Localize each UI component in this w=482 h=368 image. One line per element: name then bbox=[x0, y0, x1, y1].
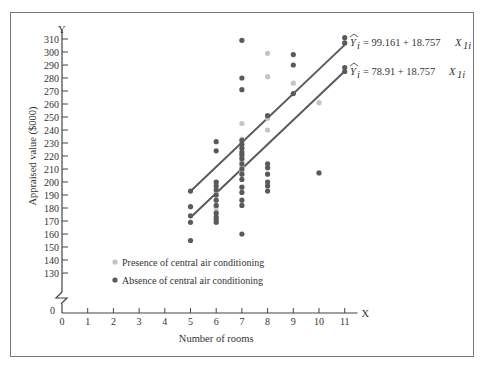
y-tick-label: 180 bbox=[44, 203, 59, 214]
point-without-ac bbox=[291, 62, 296, 67]
point-with-ac bbox=[265, 74, 270, 79]
x-tick-label: 6 bbox=[214, 316, 219, 327]
point-without-ac bbox=[239, 177, 244, 182]
point-without-ac bbox=[214, 148, 219, 153]
point-without-ac bbox=[265, 113, 270, 118]
y-tick-label: 310 bbox=[44, 34, 59, 45]
x-tick-label: 8 bbox=[265, 316, 270, 327]
point-without-ac bbox=[239, 161, 244, 166]
point-without-ac bbox=[239, 156, 244, 161]
svg-text:= 78.91 + 18.757: = 78.91 + 18.757 bbox=[363, 66, 435, 77]
point-without-ac bbox=[214, 139, 219, 144]
legend-marker-without-ac bbox=[112, 277, 117, 282]
chart-frame bbox=[11, 13, 474, 357]
svg-text:1i: 1i bbox=[463, 40, 471, 51]
x-tick-label: 9 bbox=[291, 316, 296, 327]
svg-text:X: X bbox=[454, 37, 462, 48]
point-without-ac bbox=[239, 166, 244, 171]
point-without-ac bbox=[188, 238, 193, 243]
point-without-ac bbox=[239, 38, 244, 43]
point-without-ac bbox=[239, 75, 244, 80]
point-without-ac bbox=[239, 172, 244, 177]
point-without-ac bbox=[214, 192, 219, 197]
svg-text:i: i bbox=[357, 40, 360, 51]
point-without-ac bbox=[291, 52, 296, 57]
point-with-ac bbox=[291, 81, 296, 86]
x-axis-title: Number of rooms bbox=[179, 333, 254, 344]
point-without-ac bbox=[214, 220, 219, 225]
y-tick-label: 220 bbox=[44, 151, 59, 162]
y-tick-label: 200 bbox=[44, 177, 59, 188]
x-tick-label: 10 bbox=[314, 316, 324, 327]
point-without-ac bbox=[265, 189, 270, 194]
y-tick-label: 290 bbox=[44, 60, 59, 71]
point-without-ac bbox=[239, 87, 244, 92]
x-tick-label: 0 bbox=[60, 316, 65, 327]
legend-marker-with-ac bbox=[112, 259, 117, 264]
y-tick-label: 210 bbox=[44, 164, 59, 175]
point-without-ac bbox=[214, 198, 219, 203]
point-without-ac bbox=[188, 189, 193, 194]
svg-text:= 99.161 + 18.757: = 99.161 + 18.757 bbox=[363, 37, 440, 48]
y-tick-label: 140 bbox=[44, 255, 59, 266]
point-without-ac bbox=[265, 183, 270, 188]
y-tick-label: 170 bbox=[44, 216, 59, 227]
y-tick-label: 130 bbox=[44, 268, 59, 279]
point-without-ac bbox=[214, 187, 219, 192]
point-with-ac bbox=[316, 100, 321, 105]
point-with-ac bbox=[265, 127, 270, 132]
point-with-ac bbox=[265, 51, 270, 56]
x-axis-letter: X bbox=[362, 308, 370, 319]
y-tick-label: 300 bbox=[44, 47, 59, 58]
point-without-ac bbox=[188, 213, 193, 218]
point-without-ac bbox=[188, 220, 193, 225]
point-without-ac bbox=[239, 231, 244, 236]
y-axis-letter: Y bbox=[58, 24, 66, 35]
x-tick-label: 4 bbox=[162, 316, 167, 327]
svg-text:i: i bbox=[357, 69, 360, 80]
y-origin-label: 0 bbox=[50, 305, 55, 316]
x-tick-label: 11 bbox=[340, 316, 350, 327]
y-tick-label: 270 bbox=[44, 86, 59, 97]
y-tick-label: 250 bbox=[44, 112, 59, 123]
legend-label-without-ac: Absence of central air conditioning bbox=[122, 275, 263, 286]
point-without-ac bbox=[265, 172, 270, 177]
point-with-ac bbox=[239, 121, 244, 126]
legend-label-with-ac: Presence of central air conditioning bbox=[122, 257, 264, 268]
point-without-ac bbox=[239, 190, 244, 195]
y-tick-label: 190 bbox=[44, 190, 59, 201]
point-without-ac bbox=[316, 170, 321, 175]
y-tick-label: 160 bbox=[44, 229, 59, 240]
svg-text:1i: 1i bbox=[457, 69, 465, 80]
scatter-chart: XY01301401501601701801902002102202302402… bbox=[0, 0, 482, 368]
point-without-ac bbox=[239, 185, 244, 190]
svg-text:X: X bbox=[448, 66, 456, 77]
point-without-ac bbox=[214, 203, 219, 208]
point-without-ac bbox=[265, 165, 270, 170]
y-tick-label: 150 bbox=[44, 242, 59, 253]
y-tick-label: 230 bbox=[44, 138, 59, 149]
point-without-ac bbox=[342, 69, 347, 74]
x-tick-label: 2 bbox=[111, 316, 116, 327]
y-tick-label: 280 bbox=[44, 73, 59, 84]
point-without-ac bbox=[239, 198, 244, 203]
point-without-ac bbox=[342, 35, 347, 40]
point-without-ac bbox=[291, 91, 296, 96]
x-tick-label: 5 bbox=[188, 316, 193, 327]
x-tick-label: 1 bbox=[85, 316, 90, 327]
y-tick-label: 260 bbox=[44, 99, 59, 110]
x-tick-label: 7 bbox=[239, 316, 244, 327]
x-tick-label: 3 bbox=[137, 316, 142, 327]
point-without-ac bbox=[342, 40, 347, 45]
y-tick-label: 240 bbox=[44, 125, 59, 136]
point-without-ac bbox=[239, 203, 244, 208]
point-without-ac bbox=[188, 204, 193, 209]
y-axis-title: Appraised value ($000) bbox=[27, 106, 39, 206]
